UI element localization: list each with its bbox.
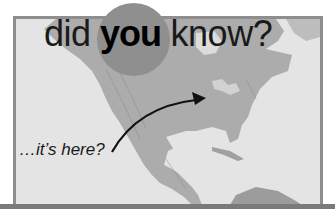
- caption-text: …it’s here?: [19, 140, 105, 160]
- curved-arrow-icon: [0, 0, 335, 209]
- bottom-bar: [0, 204, 335, 209]
